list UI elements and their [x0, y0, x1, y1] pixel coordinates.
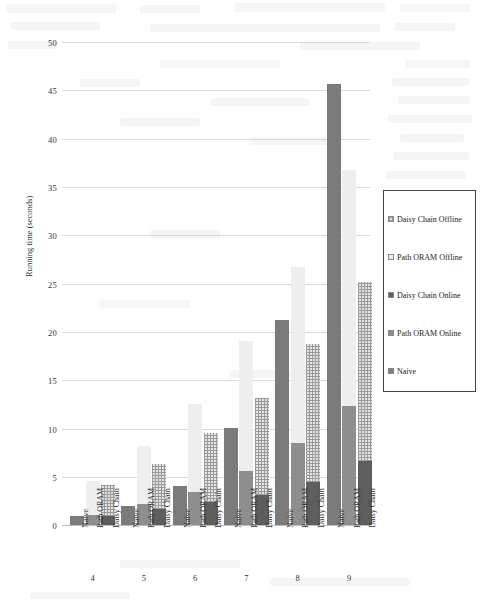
legend-label: Path ORAM Online — [397, 329, 461, 338]
gridline — [62, 90, 370, 91]
legend-item: Daisy Chain Online — [388, 276, 475, 314]
plot-area: Running time (seconds) — [62, 42, 370, 525]
y-tick-label: 25 — [35, 280, 57, 290]
gridline — [62, 284, 370, 285]
y-tick-label: 45 — [35, 86, 57, 96]
bar-segment-path-oram-offline — [188, 404, 202, 492]
gridline — [62, 187, 370, 188]
y-tick-label: 0 — [35, 521, 57, 531]
y-tick-label: 50 — [35, 38, 57, 48]
y-tick-label: 20 — [35, 328, 57, 338]
x-group-label: 5 — [134, 573, 154, 583]
x-tick-label: Daisy Chain — [368, 488, 443, 528]
y-tick-label: 35 — [35, 183, 57, 193]
x-group-label: 4 — [83, 573, 103, 583]
y-tick-label: 40 — [35, 135, 57, 145]
bar-segment-path-oram-offline — [239, 341, 253, 470]
y-tick-label: 15 — [35, 376, 57, 386]
chart-figure: 50 45 40 35 30 25 20 15 10 5 0 Running t… — [0, 0, 481, 603]
legend-item: Path ORAM Offline — [388, 238, 475, 276]
gridline — [62, 380, 370, 381]
x-group-label: 6 — [185, 573, 205, 583]
bar-segment-path-oram-offline — [342, 170, 356, 406]
gridline — [62, 429, 370, 430]
gridline — [62, 235, 370, 236]
bar-segment-naive — [327, 84, 341, 525]
legend-item: Daisy Chain Offline — [388, 200, 475, 238]
legend-label: Path ORAM Offline — [397, 253, 462, 262]
y-axis-title: Running time (seconds) — [24, 196, 34, 277]
legend-swatch-path-oram-offline — [388, 254, 394, 260]
legend-swatch-daisy-chain-offline — [388, 216, 394, 222]
bar-segment-path-oram-offline — [291, 267, 305, 443]
legend-label: Daisy Chain Online — [397, 291, 461, 300]
x-group-label: 9 — [339, 573, 359, 583]
x-group-label: 7 — [236, 573, 256, 583]
bar-segment-daisy-chain-offline — [358, 282, 372, 462]
x-group-label: 8 — [288, 573, 308, 583]
legend-swatch-daisy-chain-online — [388, 292, 394, 298]
legend-swatch-naive — [388, 368, 394, 374]
legend-label: Naive — [397, 367, 416, 376]
gridline — [62, 42, 370, 43]
legend-item: Naive — [388, 352, 475, 390]
legend-label: Daisy Chain Offline — [397, 215, 462, 224]
chart-legend: Daisy Chain Offline Path ORAM Offline Da… — [383, 190, 476, 392]
y-tick-label: 30 — [35, 231, 57, 241]
legend-item: Path ORAM Online — [388, 314, 475, 352]
bar-segment-daisy-chain-offline — [306, 344, 320, 481]
y-tick-label: 10 — [35, 425, 57, 435]
gridline — [62, 332, 370, 333]
bar-segment-daisy-chain-offline — [255, 398, 269, 496]
legend-swatch-path-oram-online — [388, 330, 394, 336]
gridline — [62, 139, 370, 140]
y-tick-label: 5 — [35, 473, 57, 483]
